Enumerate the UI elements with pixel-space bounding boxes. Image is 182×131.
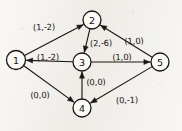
edge-3-to-1 bbox=[26, 60, 72, 61]
arrowhead-5-to-4 bbox=[91, 98, 98, 103]
node-label-4: 4 bbox=[79, 103, 85, 114]
edge-1-to-2 bbox=[25, 25, 83, 56]
edge-5-to-2 bbox=[101, 25, 152, 57]
arrowhead-3-to-5 bbox=[144, 59, 150, 64]
node-label-3: 3 bbox=[79, 57, 85, 68]
node-label-2: 2 bbox=[89, 15, 95, 26]
edge-1-to-4 bbox=[24, 66, 74, 102]
edge-5-to-4 bbox=[91, 67, 152, 103]
arrowhead-2-to-3 bbox=[83, 46, 88, 53]
arrowhead-3-to-1 bbox=[26, 58, 32, 63]
node-label-5: 5 bbox=[157, 57, 163, 68]
arrowhead-4-to-3 bbox=[79, 72, 84, 78]
arrowhead-1-to-4 bbox=[67, 96, 74, 102]
graph-figure: 12345 (1,-2)(2,-6)(1,0)(1,-2)(1,0)(0,0)(… bbox=[0, 0, 182, 131]
arrowhead-5-to-2 bbox=[101, 25, 108, 30]
directed-graph-canvas: 12345 bbox=[0, 0, 182, 131]
node-label-1: 1 bbox=[13, 55, 19, 66]
arrowhead-1-to-2 bbox=[76, 25, 83, 30]
